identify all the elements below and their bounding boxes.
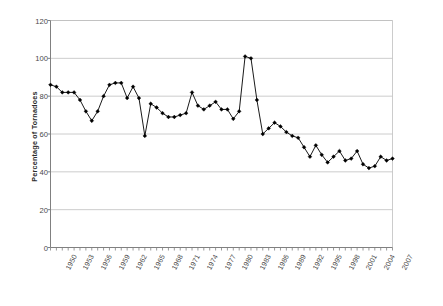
data-point-marker <box>243 55 247 59</box>
data-point-marker <box>172 115 176 119</box>
data-point-marker <box>184 111 188 115</box>
data-point-marker <box>131 85 135 89</box>
plot-area <box>0 0 443 306</box>
data-point-marker <box>143 134 147 138</box>
data-point-marker <box>119 81 123 85</box>
data-point-marker <box>66 90 70 94</box>
data-point-marker <box>137 96 141 100</box>
data-point-marker <box>102 94 106 98</box>
data-point-marker <box>113 81 117 85</box>
data-point-marker <box>249 56 253 60</box>
data-point-marker <box>108 83 112 87</box>
data-point-marker <box>125 96 129 100</box>
data-point-marker <box>178 113 182 117</box>
data-point-marker <box>255 98 259 102</box>
chart-figure: Percentage of Tornadoes 020406080100120 … <box>0 0 443 306</box>
data-point-marker <box>49 83 53 87</box>
data-point-marker <box>190 90 194 94</box>
data-point-marker <box>391 157 395 161</box>
